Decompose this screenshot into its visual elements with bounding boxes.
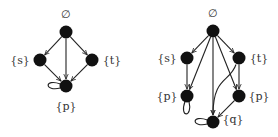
- node-label: ∅: [61, 8, 71, 21]
- node-label: {p}: [156, 90, 177, 103]
- graph-edge: [192, 36, 209, 53]
- graph-node: [233, 52, 246, 65]
- graph-node: [60, 26, 73, 39]
- node-label: {s}: [10, 54, 30, 67]
- diagram-canvas: ∅{s}{t}{p}∅{s}{t}{p}{p}{q}: [0, 0, 278, 137]
- graph-node: [86, 54, 99, 67]
- graph-edge: [71, 65, 87, 81]
- graph-node: [34, 54, 47, 67]
- graph-edge: [70, 37, 87, 55]
- node-label: ∅: [208, 7, 218, 20]
- graph-node: [181, 90, 194, 103]
- node-label: {q}: [222, 113, 243, 126]
- node-label: {s}: [157, 52, 177, 65]
- graph-node: [233, 90, 246, 103]
- node-label: {p}: [55, 100, 76, 113]
- graph-node: [207, 116, 220, 129]
- graph-edge: [218, 36, 235, 53]
- graph-node: [60, 80, 73, 93]
- node-label: {t}: [103, 54, 121, 67]
- graph-edge: [213, 65, 236, 115]
- graph-edge: [45, 37, 62, 55]
- graph-edge: [45, 65, 61, 81]
- node-label: {p}: [248, 90, 269, 103]
- node-label: {t}: [250, 52, 268, 65]
- self-loop-edge: [183, 102, 189, 114]
- self-loop-edge: [195, 118, 207, 124]
- graph-node: [181, 52, 194, 65]
- graph-node: [207, 25, 220, 38]
- self-loop-edge: [48, 82, 60, 88]
